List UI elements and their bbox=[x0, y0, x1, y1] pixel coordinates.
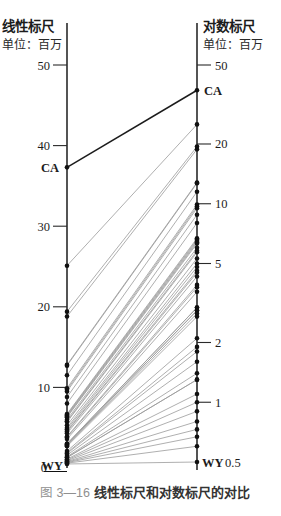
right-tick-label: 20 bbox=[215, 137, 228, 151]
data-point bbox=[65, 401, 70, 406]
left-tick-label: 50 bbox=[38, 59, 51, 73]
right-axis-unit: 单位：百万 bbox=[203, 37, 263, 52]
data-point bbox=[65, 462, 70, 467]
slope-line bbox=[67, 242, 197, 416]
data-point bbox=[195, 434, 200, 439]
data-point bbox=[195, 221, 200, 226]
right-tick-label: 1 bbox=[215, 396, 221, 410]
left-axis-unit: 单位：百万 bbox=[2, 37, 62, 52]
data-point bbox=[195, 427, 200, 432]
slope-line bbox=[67, 183, 197, 365]
data-point bbox=[65, 309, 70, 314]
data-point bbox=[195, 250, 200, 255]
data-point bbox=[195, 147, 200, 152]
right-tick-label: 50 bbox=[215, 59, 228, 73]
right-tick-label: 10 bbox=[215, 197, 228, 211]
data-point bbox=[195, 285, 200, 290]
data-point bbox=[195, 377, 200, 382]
right-tick-label: 2 bbox=[215, 336, 221, 350]
data-point bbox=[195, 371, 200, 376]
slope-line bbox=[67, 446, 197, 463]
data-point bbox=[195, 444, 200, 449]
data-point bbox=[195, 206, 200, 211]
data-point bbox=[65, 165, 70, 170]
slope-line bbox=[67, 215, 197, 397]
slopegraph-canvas: 5040302010502010521 CACA0WYWY0.5 线性标尺 单位… bbox=[0, 0, 281, 516]
wy-value-label: 0.5 bbox=[225, 456, 241, 470]
slope-lines-layer bbox=[67, 90, 197, 464]
left-axis-title: 线性标尺 bbox=[2, 18, 55, 34]
slope-line bbox=[67, 240, 197, 415]
data-point bbox=[65, 395, 70, 400]
data-point bbox=[195, 400, 200, 405]
right-axis-title: 对数标尺 bbox=[203, 18, 256, 34]
figure-linear-vs-log-scale: 5040302010502010521 CACA0WYWY0.5 线性标尺 单位… bbox=[0, 0, 281, 516]
data-point bbox=[195, 349, 200, 354]
data-point bbox=[195, 270, 200, 275]
data-point bbox=[65, 263, 70, 268]
slope-line bbox=[67, 264, 197, 428]
data-point bbox=[195, 241, 200, 246]
data-point bbox=[195, 181, 200, 186]
slope-line bbox=[67, 402, 197, 460]
data-point bbox=[65, 444, 70, 449]
slope-line bbox=[67, 462, 197, 464]
figure-caption-label: 图 3—16 bbox=[40, 486, 90, 500]
data-point bbox=[195, 256, 200, 261]
data-point bbox=[195, 460, 200, 465]
data-point bbox=[195, 290, 200, 295]
data-point bbox=[195, 212, 200, 217]
left-tick-label: 40 bbox=[38, 139, 51, 153]
data-point bbox=[195, 409, 200, 414]
data-point bbox=[65, 314, 70, 319]
data-point bbox=[65, 363, 70, 368]
data-point bbox=[195, 392, 200, 397]
data-point bbox=[195, 336, 200, 341]
slope-line bbox=[67, 271, 197, 431]
slope-line bbox=[67, 223, 197, 404]
left-tick-label: 20 bbox=[38, 300, 51, 314]
data-point bbox=[195, 314, 200, 319]
wy-label-left: WY bbox=[41, 459, 63, 473]
data-point bbox=[65, 437, 70, 442]
left-tick-label: 30 bbox=[38, 220, 51, 234]
wy-label-right: WY bbox=[202, 456, 224, 470]
data-point bbox=[195, 345, 200, 350]
slope-line bbox=[67, 147, 197, 312]
right-tick-label: 5 bbox=[215, 257, 221, 271]
data-point bbox=[195, 419, 200, 424]
data-point bbox=[195, 274, 200, 279]
data-point bbox=[195, 359, 200, 364]
data-point bbox=[195, 122, 200, 127]
ca-label-right: CA bbox=[204, 84, 222, 98]
figure-caption-title: 线性标尺和对数标尺的对比 bbox=[94, 485, 250, 500]
data-point bbox=[195, 189, 200, 194]
data-point bbox=[65, 389, 70, 394]
data-point bbox=[195, 88, 200, 93]
data-point bbox=[65, 373, 70, 378]
left-tick-label: 10 bbox=[38, 381, 51, 395]
slope-line bbox=[67, 238, 197, 414]
slope-line-highlight bbox=[67, 90, 197, 167]
slope-line bbox=[67, 124, 197, 265]
ca-label-left: CA bbox=[41, 161, 59, 175]
